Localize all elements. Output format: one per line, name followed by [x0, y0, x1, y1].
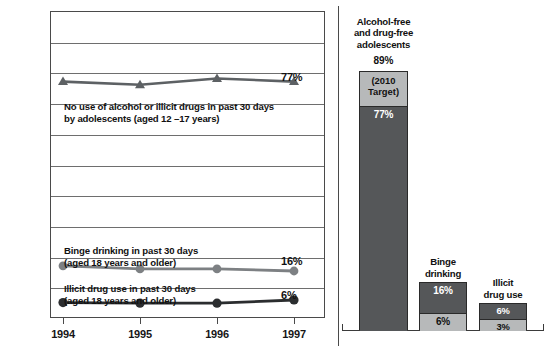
bar-segment-target-label-illicit: 3%	[496, 320, 509, 332]
line-chart-panel: 0% 10% 20% 30% 40% 50% 60% 70% 80% 90% 1…	[0, 0, 338, 357]
bar-target-text-line1: (2010	[368, 75, 399, 86]
x-axis-label-1994: 1994	[33, 328, 93, 340]
bar-segment-target-binge: 6%	[420, 313, 466, 331]
x-axis-tick-1994	[63, 318, 64, 324]
series-binge-marker-1996	[213, 265, 222, 274]
x-axis-label-1995: 1995	[110, 328, 170, 340]
series-illicit-marker-1996	[212, 299, 221, 308]
series-label-no-use-line1: No use of alcohol or illicit drugs in pa…	[64, 101, 274, 113]
bar-baseline-cap-left	[342, 324, 343, 331]
x-axis-tick-1997	[294, 318, 295, 324]
bar-title-alcohol-free-line3: adolescents	[343, 39, 424, 50]
bar-target-text-line2: Target)	[368, 86, 399, 97]
bar-total-alcohol-free: 89%	[359, 55, 408, 66]
bar-stack-illicit-drug-use: 6% 3%	[479, 303, 527, 330]
bar-segment-target-text-alcohol-free: (2010 Target)	[368, 72, 399, 98]
bar-baseline-cap-right	[543, 324, 544, 331]
bar-title-alcohol-free-line2: and drug-free	[343, 27, 424, 38]
x-axis-tick-1996	[217, 318, 218, 324]
bar-title-alcohol-free-line1: Alcohol-free	[343, 16, 424, 27]
bar-group-alcohol-free: Alcohol-free and drug-free adolescents 8…	[359, 27, 408, 330]
bar-segment-target-alcohol-free: (2010 Target)	[360, 72, 407, 106]
endpoint-label-no-use: 77%	[281, 71, 302, 83]
bar-segment-current-label-illicit: 6%	[496, 304, 509, 316]
x-axis-label-1996: 1996	[187, 328, 247, 340]
x-axis-tick-1995	[140, 318, 141, 324]
chart-figure: 0% 10% 20% 30% 40% 50% 60% 70% 80% 90% 1…	[0, 0, 553, 357]
bar-group-illicit-drug-use: Illicit drug use 6% 3% (2010 Target)	[479, 260, 527, 330]
series-label-no-use: No use of alcohol or illicit drugs in pa…	[64, 101, 274, 124]
series-label-illicit-line1: Illicit drug use in past 30 days	[64, 283, 196, 295]
series-label-binge-line1: Binge drinking in past 30 days	[64, 245, 198, 257]
series-no-use-line	[63, 79, 294, 85]
bar-segment-current-label-alcohol-free: 77%	[374, 107, 393, 120]
bar-title-illicit-line2: drug use	[471, 289, 535, 300]
bar-group-binge-drinking: Binge drinking 16% 6% (2010 Target)	[419, 230, 467, 330]
bar-title-illicit-drug-use: Illicit drug use	[471, 277, 535, 300]
series-label-illicit-line2: (aged 18 years and older)	[64, 295, 196, 307]
bar-segment-current-label-binge: 16%	[433, 283, 452, 296]
bar-segment-current-alcohol-free: 77%	[360, 106, 407, 331]
bar-segment-current-illicit: 6%	[480, 304, 526, 319]
series-label-illicit: Illicit drug use in past 30 days (aged 1…	[64, 283, 196, 306]
target-bars-panel: Alcohol-free and drug-free adolescents 8…	[338, 0, 553, 357]
series-label-binge: Binge drinking in past 30 days (aged 18 …	[64, 245, 198, 268]
series-label-binge-line2: (aged 18 years and older)	[64, 257, 198, 269]
endpoint-label-binge: 16%	[281, 255, 302, 267]
series-plot	[50, 11, 325, 318]
endpoint-label-illicit: 6%	[281, 289, 297, 301]
bar-title-alcohol-free: Alcohol-free and drug-free adolescents	[343, 16, 424, 50]
series-binge-marker-1997	[290, 267, 299, 276]
bar-stack-binge-drinking: 16% 6%	[419, 282, 467, 330]
series-label-no-use-line2: by adolescents (aged 12 –17 years)	[64, 113, 274, 125]
bar-segment-target-label-binge: 6%	[436, 314, 450, 327]
bar-segment-target-illicit: 3%	[480, 319, 526, 331]
bar-title-binge-line2: drinking	[411, 268, 475, 279]
x-axis-label-1997: 1997	[264, 328, 324, 340]
bar-title-binge-drinking: Binge drinking	[411, 256, 475, 279]
bar-segment-current-binge: 16%	[420, 283, 466, 313]
bar-title-illicit-line1: Illicit	[471, 277, 535, 288]
bar-stack-alcohol-free: (2010 Target) 77%	[359, 71, 408, 330]
bar-title-binge-line1: Binge	[411, 256, 475, 267]
